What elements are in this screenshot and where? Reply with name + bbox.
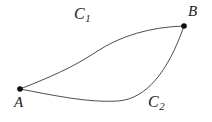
point-label-a: A (14, 95, 23, 110)
curve-label-c1: C1 (74, 6, 91, 24)
curve-label-c1-subscript: 1 (85, 13, 90, 24)
curve-label-c1-base: C (74, 5, 85, 22)
curve-diagram-svg (0, 0, 212, 122)
point-a-dot (17, 86, 23, 92)
curve-label-c2-base: C (148, 93, 159, 110)
figure-canvas: A B C1 C2 (0, 0, 212, 122)
curve-c2-path (20, 26, 184, 101)
point-label-b: B (188, 4, 197, 19)
curve-c1-path (20, 26, 184, 89)
curve-label-c2-subscript: 2 (159, 101, 164, 112)
curve-label-c2: C2 (148, 94, 165, 112)
point-b-dot (181, 23, 187, 29)
